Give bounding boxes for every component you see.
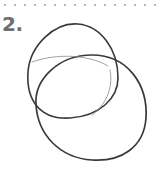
overlapping-ovals-sketch <box>0 0 161 178</box>
